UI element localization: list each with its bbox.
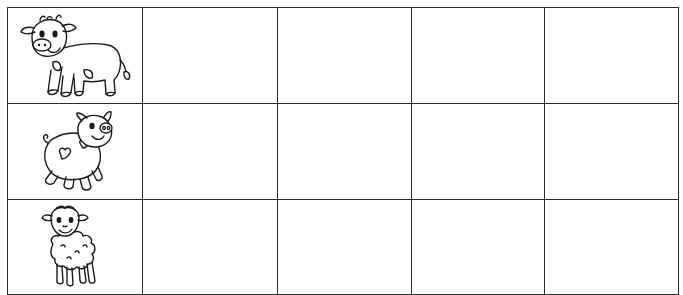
answer-cell[interactable] (143, 8, 278, 104)
worksheet-grid: cow (7, 7, 679, 295)
answer-cell[interactable] (412, 8, 545, 104)
grid-row-cow: cow (8, 8, 679, 104)
answer-cell[interactable] (278, 104, 412, 200)
animal-cell-pig: pig (8, 104, 143, 200)
answer-cell[interactable] (143, 104, 278, 200)
answer-cell[interactable] (278, 200, 412, 295)
sheep-icon (35, 204, 115, 290)
grid-row-sheep: sheep (8, 200, 679, 295)
animal-cell-cow: cow (8, 8, 143, 104)
grid-row-pig: pig (8, 104, 679, 200)
answer-cell[interactable] (545, 8, 679, 104)
answer-cell[interactable] (545, 200, 679, 295)
answer-cell[interactable] (545, 104, 679, 200)
answer-cell[interactable] (143, 200, 278, 295)
answer-cell[interactable] (278, 8, 412, 104)
animal-cell-sheep: sheep (8, 200, 143, 295)
cow-icon (18, 12, 133, 100)
worksheet: cow (7, 7, 678, 294)
answer-cell[interactable] (412, 200, 545, 295)
pig-icon (30, 109, 120, 195)
answer-cell[interactable] (412, 104, 545, 200)
